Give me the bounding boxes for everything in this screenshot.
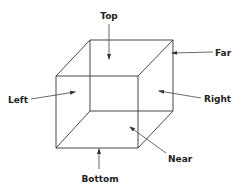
- far-arrow: [172, 52, 213, 53]
- right-arrow: [159, 91, 201, 98]
- left-arrow: [31, 92, 75, 99]
- label-bottom: Bottom: [81, 174, 118, 184]
- label-far: Far: [215, 48, 232, 58]
- label-left: Left: [8, 95, 29, 105]
- label-near: Near: [168, 154, 193, 164]
- cube-back-face: [90, 40, 173, 111]
- leader-arrows: [31, 24, 213, 169]
- label-right: Right: [204, 94, 232, 104]
- depth-edge-bottom-right: [138, 111, 173, 148]
- cube-depth-edges: [56, 40, 173, 148]
- label-top: Top: [100, 11, 118, 21]
- cube-diagram: Top Far Left Right Near Bottom: [0, 0, 242, 192]
- cube-front-face: [56, 76, 138, 148]
- depth-edge-top-right: [138, 40, 173, 76]
- depth-edge-bottom-left: [56, 111, 90, 148]
- depth-edge-top-left: [56, 40, 90, 76]
- near-arrow: [130, 127, 166, 153]
